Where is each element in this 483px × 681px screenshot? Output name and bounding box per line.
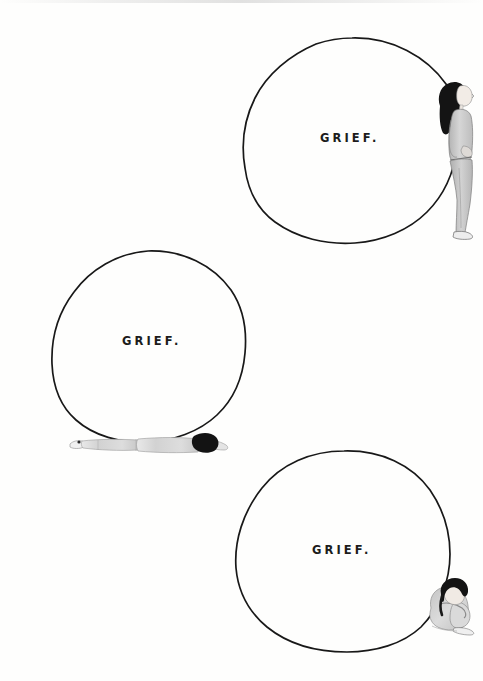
standing-leaning-figure [432, 76, 478, 244]
head [457, 85, 473, 106]
panel-middle: GRIEF. [0, 240, 483, 470]
grief-label-top: GRIEF. [320, 131, 380, 145]
grief-circle-top [0, 0, 483, 270]
illustration-page: GRIEF. [0, 0, 483, 681]
panel-top: GRIEF. [0, 0, 483, 270]
feet [453, 628, 474, 635]
grief-label-middle: GRIEF. [122, 334, 182, 348]
panel-bottom: GRIEF. [0, 440, 483, 681]
grief-circle-bottom [0, 440, 483, 681]
grief-label-bottom: GRIEF. [312, 543, 372, 557]
seated-hugging-knees-figure [424, 572, 478, 638]
shoe [453, 231, 473, 239]
